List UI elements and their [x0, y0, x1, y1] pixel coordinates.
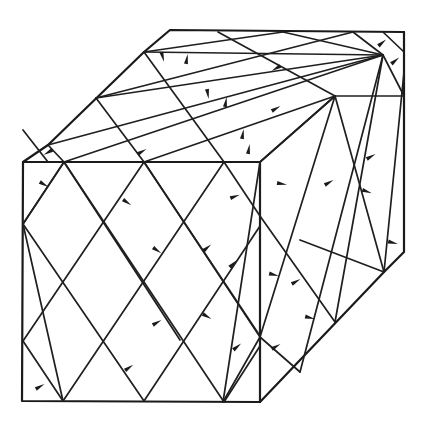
arrow-icon: [160, 52, 166, 63]
cube-diagram: [0, 0, 422, 421]
arrow-icon: [271, 104, 282, 112]
arrow-icon: [291, 277, 302, 285]
arrow-icon: [152, 318, 163, 326]
arrow-icon: [230, 193, 241, 200]
arrow-icon: [232, 342, 242, 351]
arrow-icon: [122, 198, 132, 207]
direction-arrows: [35, 38, 401, 391]
arrow-icon: [324, 178, 335, 186]
arrow-icon: [184, 54, 190, 65]
arrow-icon: [35, 382, 46, 390]
arrow-icon: [240, 129, 246, 140]
arrow-icon: [390, 56, 400, 65]
arrow-icon: [277, 181, 288, 187]
right-face-creases: [223, 55, 404, 402]
right-face-outline: [260, 32, 404, 402]
arrow-icon: [246, 144, 252, 155]
arrow-icon: [152, 246, 162, 255]
arrow-icon: [269, 272, 280, 278]
arrow-icon: [43, 148, 54, 156]
arrow-icon: [202, 312, 213, 320]
arrow-icon: [205, 89, 211, 100]
arrow-icon: [377, 38, 387, 47]
front-face-creases: [23, 130, 260, 402]
cube-outline: [22, 30, 404, 402]
arrow-icon: [362, 188, 373, 195]
arrow-icon: [366, 152, 377, 160]
arrow-icon: [137, 147, 148, 155]
arrow-icon: [202, 243, 212, 252]
figure-canvas: [0, 0, 422, 421]
top-face-creases: [48, 32, 404, 162]
arrow-icon: [271, 342, 282, 350]
arrow-icon: [124, 363, 134, 372]
arrow-icon: [388, 240, 399, 246]
